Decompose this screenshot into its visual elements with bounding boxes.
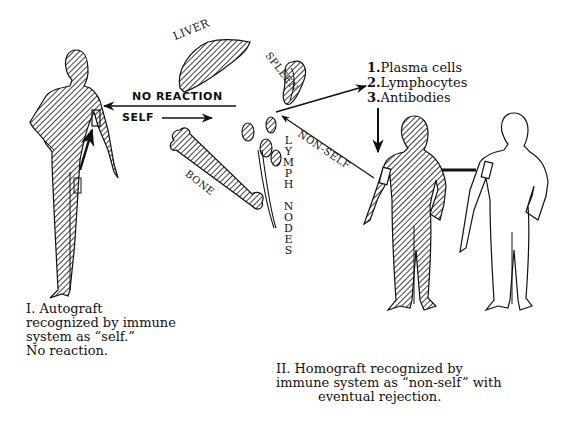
- liver-shape: [179, 40, 250, 92]
- list-item-antibodies: 3.Antibodies: [367, 90, 467, 105]
- homograft-donor-figure: [460, 113, 548, 310]
- no-reaction-label: NO REACTION: [132, 90, 223, 103]
- autograft-caption: I. Autograft recognized by immune system…: [26, 302, 176, 358]
- immune-response-list: 1.Plasma cells 2.Lymphocytes 3.Antibodie…: [367, 60, 467, 105]
- immune-graft-diagram: LIVER SPLEEN BONE LYMPH NODES NO REACTIO…: [0, 0, 572, 424]
- lymph-nodes-label: LYMPH NODES: [282, 134, 295, 255]
- homograft-recipient-figure: [364, 116, 446, 310]
- list-item-lymphocytes: 2.Lymphocytes: [367, 75, 467, 90]
- autograft-figure: [30, 50, 118, 298]
- self-label: SELF: [122, 111, 154, 124]
- lymph-nodes-shape: [242, 117, 281, 228]
- homograft-caption: II. Homograft recognized by immune syste…: [276, 362, 502, 404]
- list-item-plasma-cells: 1.Plasma cells: [367, 60, 467, 75]
